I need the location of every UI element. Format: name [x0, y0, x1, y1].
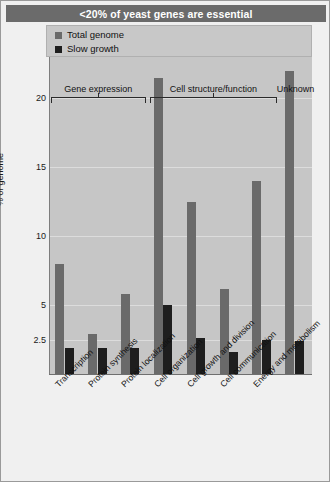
- gridline: [50, 236, 312, 237]
- bar-total-genome: [285, 71, 294, 374]
- bar-total-genome: [55, 264, 64, 374]
- chart-legend: Total genome Slow growth: [46, 25, 312, 57]
- y-axis-title: % of genome: [0, 153, 5, 206]
- legend-item-slow-growth: Slow growth: [55, 42, 311, 56]
- legend-label-slow-growth: Slow growth: [67, 42, 119, 56]
- y-axis-tick-label: 10: [6, 231, 46, 241]
- plot-area: [49, 57, 312, 374]
- bar-total-genome: [121, 294, 130, 374]
- group-bracket: [51, 97, 146, 103]
- legend-item-total-genome: Total genome: [55, 28, 311, 42]
- gridline: [50, 167, 312, 168]
- y-axis-tick-label: 2.5: [6, 335, 46, 345]
- legend-swatch-slow-growth: [55, 46, 62, 53]
- y-axis: 2.55101520: [1, 1, 46, 482]
- y-axis-tick-label: 5: [6, 300, 46, 310]
- chart-title: <20% of yeast genes are essential: [6, 5, 326, 22]
- chart-figure: <20% of yeast genes are essential Total …: [0, 0, 330, 482]
- y-axis-tick-label: 15: [6, 162, 46, 172]
- group-bracket: [150, 97, 278, 103]
- legend-label-total-genome: Total genome: [67, 28, 124, 42]
- y-axis-tick-label: 20: [6, 93, 46, 103]
- group-label: Gene expression: [64, 84, 132, 94]
- gridline: [50, 305, 312, 306]
- group-label: Unknown: [277, 84, 315, 94]
- group-label: Cell structure/function: [170, 84, 257, 94]
- bar-total-genome: [154, 78, 163, 374]
- bar-total-genome: [220, 289, 229, 374]
- legend-swatch-total-genome: [55, 32, 62, 39]
